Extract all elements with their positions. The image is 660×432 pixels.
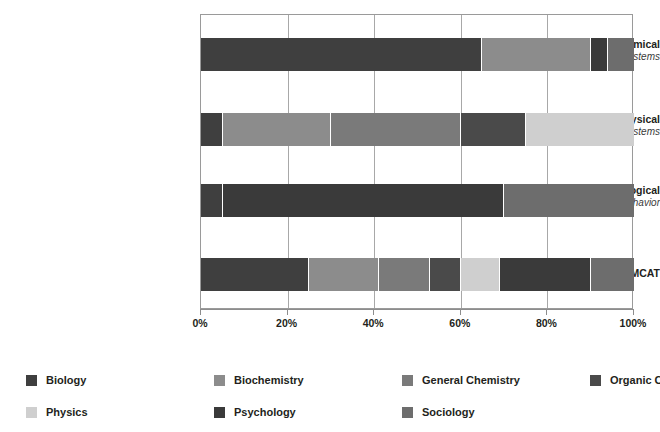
legend-item-general-chemistry[interactable]: General Chemistry [402, 374, 590, 386]
x-tick-80 [546, 309, 547, 315]
chart-legend: BiologyBiochemistryGeneral ChemistryOrga… [26, 364, 646, 428]
x-tick-40 [373, 309, 374, 315]
legend-item-physics[interactable]: Physics [26, 406, 214, 418]
legend-label: Sociology [422, 406, 475, 418]
x-tick-label-40: 40% [363, 317, 384, 329]
legend-swatch-icon [214, 375, 225, 386]
x-tick-label-0: 0% [192, 317, 207, 329]
bar-segment-general-chemistry [379, 258, 431, 291]
legend-swatch-icon [402, 407, 413, 418]
bar-segment-sociology [591, 258, 634, 291]
x-tick-20 [287, 309, 288, 315]
legend-swatch-icon [26, 375, 37, 386]
stacked-bar-4 [201, 258, 634, 291]
legend-swatch-icon [26, 407, 37, 418]
legend-swatch-icon [590, 375, 601, 386]
x-tick-label-100: 100% [620, 317, 647, 329]
bar-segment-biochemistry [223, 113, 331, 146]
bar-segment-psychology [591, 38, 608, 71]
stacked-bar-2 [201, 113, 634, 146]
legend-label: Biology [46, 374, 86, 386]
legend-item-psychology[interactable]: Psychology [214, 406, 402, 418]
chart-canvas: Biological and BiochemicalFoundations of… [0, 0, 660, 432]
bar-segment-biology [201, 38, 482, 71]
legend-label: Biochemistry [234, 374, 304, 386]
x-tick-label-20: 20% [276, 317, 297, 329]
bar-segment-organic-chemistry [430, 258, 460, 291]
bar-segment-biochemistry [309, 258, 378, 291]
bar-segment-psychology [223, 184, 504, 217]
legend-label: Psychology [234, 406, 296, 418]
legend-label: General Chemistry [422, 374, 520, 386]
bar-segment-physics [461, 258, 500, 291]
stacked-bar-1 [201, 38, 634, 71]
legend-item-organic-chemistry[interactable]: Organic Chemistry [590, 374, 660, 386]
x-tick-0 [200, 309, 201, 315]
legend-label: Physics [46, 406, 88, 418]
bar-segment-biochemistry [482, 38, 590, 71]
bar-segment-organic-chemistry [461, 113, 526, 146]
bar-segment-psychology [500, 258, 591, 291]
bar-segment-biology [201, 184, 223, 217]
x-tick-label-80: 80% [536, 317, 557, 329]
legend-item-biology[interactable]: Biology [26, 374, 214, 386]
legend-label: Organic Chemistry [610, 374, 660, 386]
x-tick-label-60: 60% [449, 317, 470, 329]
bar-segment-sociology [608, 38, 634, 71]
x-tick-100 [633, 309, 634, 315]
legend-item-biochemistry[interactable]: Biochemistry [214, 374, 402, 386]
x-axis-line [200, 309, 634, 310]
bar-segment-biology [201, 113, 223, 146]
legend-swatch-icon [402, 375, 413, 386]
legend-item-sociology[interactable]: Sociology [402, 406, 590, 418]
stacked-bar-3 [201, 184, 634, 217]
x-tick-60 [460, 309, 461, 315]
legend-swatch-icon [214, 407, 225, 418]
bar-segment-biology [201, 258, 309, 291]
bar-segment-general-chemistry [331, 113, 461, 146]
bar-segment-sociology [504, 184, 634, 217]
bar-segment-physics [526, 113, 634, 146]
